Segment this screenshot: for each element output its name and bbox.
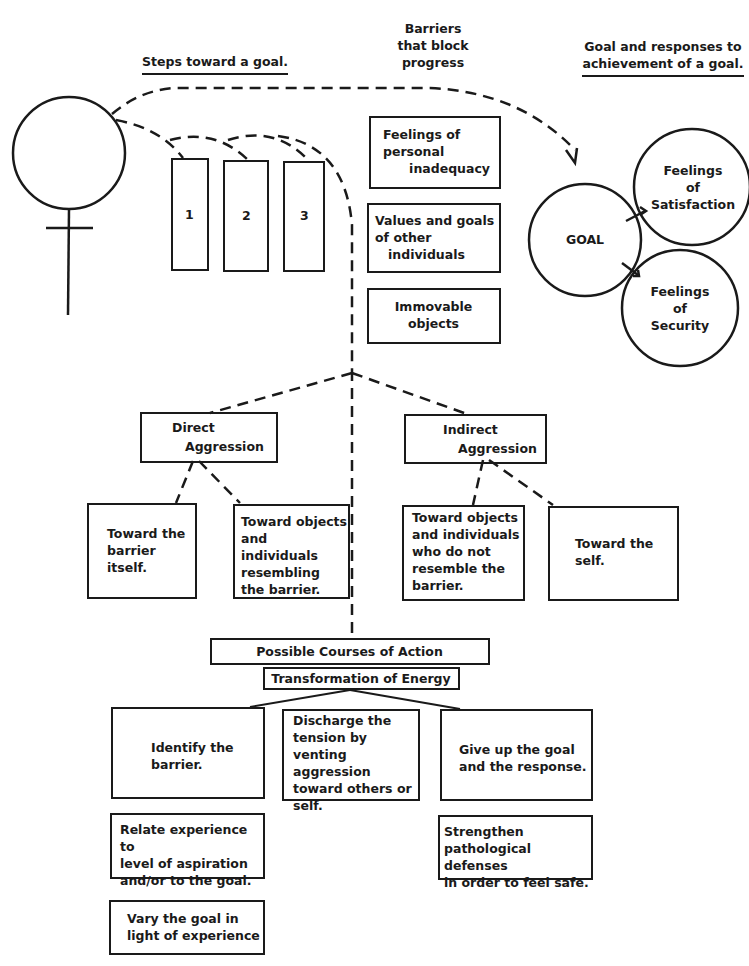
- goal-label: GOAL: [545, 231, 625, 248]
- possible-courses-title: Possible Courses of Action: [212, 643, 487, 660]
- possible-courses-box: Possible Courses of Action: [210, 638, 490, 665]
- indirect-label-line2: Aggression: [458, 440, 537, 457]
- target-label: Toward the barrier itself.: [107, 525, 185, 576]
- step-label: 2: [242, 207, 251, 224]
- followup-strengthen-defenses: Strengthen pathological defenses in orde…: [438, 815, 593, 880]
- target-self: Toward the self.: [548, 506, 679, 601]
- step-box-3: 3: [283, 161, 325, 272]
- barrier-box-inadequacy: Feelings of personal inadequacy: [369, 116, 501, 189]
- target-label: Toward objects and individuals resemblin…: [241, 513, 348, 598]
- followup-label: Relate experience to level of aspiration…: [120, 821, 263, 889]
- target-label: Toward the self.: [575, 535, 653, 569]
- target-label: Toward objects and individuals who do no…: [412, 509, 520, 594]
- followup-relate-experience: Relate experience to level of aspiration…: [110, 813, 265, 879]
- direct-label-line2: Aggression: [185, 438, 264, 455]
- indirect-label-line1: Indirect: [443, 421, 498, 438]
- heading-barriers: Barriers that block progress: [383, 20, 483, 71]
- heading-goal-line1: Goal and responses to: [568, 38, 749, 55]
- target-barrier-itself: Toward the barrier itself.: [87, 503, 197, 599]
- satisfaction-label: Feelings of Satisfaction: [640, 162, 746, 213]
- option-give-up-goal: Give up the goal and the response.: [440, 709, 593, 801]
- transformation-subtitle: Transformation of Energy: [265, 670, 457, 687]
- heading-steps: Steps toward a goal.: [142, 53, 288, 75]
- barrier-label: Immovable objects: [369, 298, 498, 332]
- target-resembling-barrier: Toward objects and individuals resemblin…: [233, 504, 350, 599]
- option-label: Give up the goal and the response.: [459, 741, 587, 775]
- barrier-label: Values and goals of other individuals: [375, 212, 494, 263]
- security-label: Feelings of Security: [630, 283, 730, 334]
- heading-goal-line2: achievement of a goal.: [582, 55, 743, 77]
- barrier-label: Feelings of personal inadequacy: [383, 126, 490, 177]
- followup-label: Vary the goal in light of experience: [127, 910, 260, 944]
- person-head-icon: [13, 97, 125, 209]
- barrier-box-immovable: Immovable objects: [367, 288, 501, 344]
- target-not-resembling-barrier: Toward objects and individuals who do no…: [402, 505, 525, 601]
- step-box-2: 2: [223, 160, 269, 272]
- option-label: Discharge the tension by venting aggress…: [293, 712, 418, 814]
- followup-vary-goal: Vary the goal in light of experience: [109, 900, 265, 955]
- indirect-aggression-box-visible: Indirect Aggression: [404, 414, 547, 464]
- heading-goal-responses: Goal and responses to achievement of a g…: [568, 38, 749, 77]
- direct-label-line1: Direct: [172, 419, 215, 436]
- option-discharge-tension: Discharge the tension by venting aggress…: [282, 709, 420, 801]
- path-to-goal: [112, 88, 575, 150]
- followup-label: Strengthen pathological defenses in orde…: [444, 823, 591, 891]
- barrier-box-values: Values and goals of other individuals: [367, 203, 501, 273]
- step-label: 1: [185, 206, 194, 223]
- option-identify-barrier: Identify the barrier.: [111, 707, 265, 799]
- direct-aggression-box: Direct Aggression: [140, 412, 278, 463]
- option-label: Identify the barrier.: [151, 739, 234, 773]
- step-label: 3: [300, 207, 309, 224]
- transformation-box: Transformation of Energy: [263, 667, 460, 690]
- step-box-1: 1: [171, 158, 209, 271]
